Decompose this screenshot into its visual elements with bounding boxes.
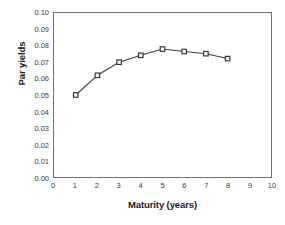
x-tick-label: 2 [85,181,109,190]
y-tick-label: 0.08 [3,41,49,50]
y-tick-label: 0.06 [3,74,49,83]
y-tick-label: 0.10 [3,8,49,17]
data-point-marker [73,93,78,98]
data-point-marker [204,51,209,56]
data-series-layer [54,13,271,177]
x-tick-label: 4 [129,181,153,190]
x-tick-label: 10 [260,181,284,190]
x-axis-title: Maturity (years) [53,199,272,210]
data-point-marker [139,53,144,58]
y-tick-label: 0.07 [3,57,49,66]
data-point-marker [160,47,165,52]
plot-area [53,12,272,178]
y-tick-label: 0.05 [3,91,49,100]
data-point-marker [117,60,122,65]
chart-figure: Par yields 0.000.010.020.030.040.050.060… [0,0,285,225]
data-point-marker [225,56,230,61]
x-tick-label: 7 [194,181,218,190]
x-tick-label: 9 [238,181,262,190]
data-point-marker [182,49,187,54]
x-tick-label: 8 [216,181,240,190]
y-tick-label: 0.04 [3,107,49,116]
y-tick-label: 0.01 [3,157,49,166]
par-yields-markers [73,47,229,97]
x-tick-label: 6 [172,181,196,190]
y-tick-label: 0.02 [3,140,49,149]
y-tick-label: 0.09 [3,24,49,33]
data-point-marker [95,73,100,78]
x-tick-label: 1 [63,181,87,190]
y-axis-tick-labels: 0.000.010.020.030.040.050.060.070.080.09… [0,0,49,225]
x-tick-label: 3 [107,181,131,190]
y-tick-label: 0.03 [3,124,49,133]
x-tick-label: 0 [41,181,65,190]
x-tick-label: 5 [151,181,175,190]
